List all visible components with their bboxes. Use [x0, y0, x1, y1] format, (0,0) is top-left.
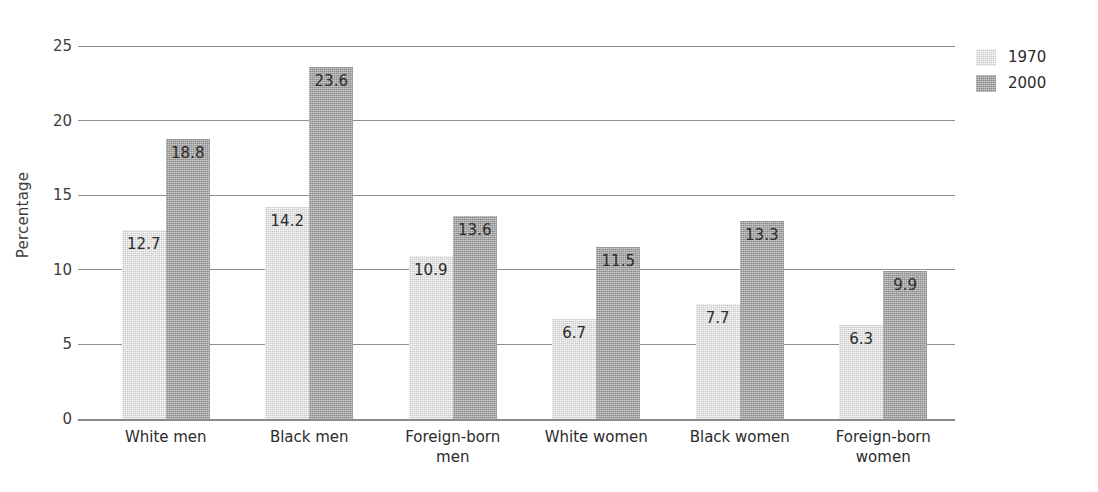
- legend-item[interactable]: 1970: [976, 44, 1086, 70]
- x-axis-category-label: Black women: [668, 427, 812, 447]
- x-axis-category-label: Foreign-bornwomen: [812, 427, 956, 467]
- bar-value-label: 18.8: [166, 145, 210, 162]
- legend-label: 2000: [1008, 75, 1046, 92]
- bar-value-label: 12.7: [122, 236, 166, 253]
- bar[interactable]: 6.7: [552, 319, 596, 419]
- x-axis-category-label: White men: [94, 427, 238, 447]
- y-axis-tick-label: 5: [32, 335, 78, 353]
- bar-chart: Percentage 051015202512.718.814.223.610.…: [0, 0, 1098, 492]
- y-axis-tick-label: 25: [32, 37, 78, 55]
- x-axis-label-line: men: [381, 447, 525, 467]
- y-axis-tick-label: 10: [32, 261, 78, 279]
- bar-value-label: 10.9: [409, 262, 453, 279]
- bar[interactable]: 14.2: [265, 207, 309, 419]
- bar-value-label: 13.3: [740, 227, 784, 244]
- bar-value-label: 6.7: [552, 325, 596, 342]
- bar-value-label: 14.2: [265, 213, 309, 230]
- legend-item[interactable]: 2000: [976, 70, 1086, 96]
- y-axis-tick-label: 20: [32, 112, 78, 130]
- legend-label: 1970: [1008, 49, 1046, 66]
- x-axis-label-line: women: [812, 447, 956, 467]
- bar[interactable]: 18.8: [166, 139, 210, 419]
- bar[interactable]: 7.7: [696, 304, 740, 419]
- bar-value-label: 9.9: [883, 277, 927, 294]
- y-axis-title-text: Percentage: [14, 172, 32, 258]
- x-axis-label-line: Black women: [668, 427, 812, 447]
- x-axis-category-label: Black men: [238, 427, 382, 447]
- y-axis-tick-label: 0: [32, 410, 78, 428]
- bar-group: 7.713.3: [668, 46, 812, 419]
- bar-value-label: 11.5: [596, 253, 640, 270]
- y-axis-title: Percentage: [0, 0, 46, 430]
- x-axis-label-line: White women: [525, 427, 669, 447]
- bar-value-label: 23.6: [309, 73, 353, 90]
- bar-value-label: 7.7: [696, 310, 740, 327]
- bar[interactable]: 6.3: [839, 325, 883, 419]
- bar-group: 6.39.9: [812, 46, 956, 419]
- x-axis-category-label: White women: [525, 427, 669, 447]
- x-axis-category-label: Foreign-bornmen: [381, 427, 525, 467]
- bar-group: 10.913.6: [381, 46, 525, 419]
- y-axis-tick-label: 15: [32, 186, 78, 204]
- bar-group: 6.711.5: [525, 46, 669, 419]
- x-axis-label-line: White men: [94, 427, 238, 447]
- x-axis-label-line: Foreign-born: [381, 427, 525, 447]
- bar-group: 14.223.6: [238, 46, 382, 419]
- bar[interactable]: 9.9: [883, 271, 927, 419]
- x-axis-label-line: Black men: [238, 427, 382, 447]
- plot-area: 051015202512.718.814.223.610.913.66.711.…: [94, 46, 955, 419]
- bar-group: 12.718.8: [94, 46, 238, 419]
- bar-value-label: 13.6: [453, 222, 497, 239]
- bar[interactable]: 13.3: [740, 221, 784, 419]
- axis-baseline: [62, 419, 955, 421]
- x-axis-label-line: Foreign-born: [812, 427, 956, 447]
- legend-swatch-icon: [976, 75, 996, 92]
- bar[interactable]: 13.6: [453, 216, 497, 419]
- bar[interactable]: 12.7: [122, 230, 166, 419]
- bar[interactable]: 23.6: [309, 67, 353, 419]
- legend-swatch-icon: [976, 49, 996, 66]
- x-axis-categories: White menBlack menForeign-bornmenWhite w…: [94, 427, 955, 487]
- bar-value-label: 6.3: [839, 331, 883, 348]
- legend: 19702000: [976, 44, 1086, 96]
- bar[interactable]: 10.9: [409, 256, 453, 419]
- bar[interactable]: 11.5: [596, 247, 640, 419]
